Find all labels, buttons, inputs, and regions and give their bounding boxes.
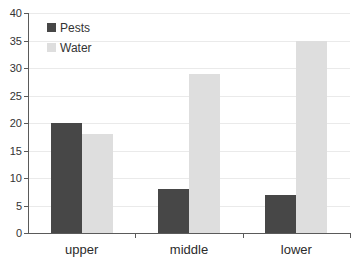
bar-pests-lower [265, 195, 296, 234]
legend-label-pests: Pests [60, 22, 90, 34]
y-axis-line [28, 13, 29, 233]
y-tick-label-30: 30 [0, 62, 22, 74]
y-tick-label-5: 5 [0, 200, 22, 212]
y-tick-40 [24, 13, 28, 14]
y-tick-35 [24, 41, 28, 42]
x-tick-2 [243, 234, 244, 238]
y-tick-25 [24, 96, 28, 97]
bar-pests-upper [51, 123, 82, 233]
legend: Pests Water [47, 22, 92, 62]
y-tick-30 [24, 68, 28, 69]
x-tick-1 [135, 234, 136, 238]
legend-item-water: Water [47, 42, 92, 53]
y-tick-label-40: 40 [0, 7, 22, 19]
y-tick-label-20: 20 [0, 117, 22, 129]
y-tick-label-15: 15 [0, 145, 22, 157]
y-tick-label-25: 25 [0, 90, 22, 102]
x-tick-3 [350, 234, 351, 238]
x-category-label-upper: upper [42, 242, 122, 257]
y-tick-5 [24, 206, 28, 207]
bar-water-lower [296, 41, 327, 234]
x-category-label-lower: lower [256, 242, 336, 257]
x-category-label-middle: middle [149, 242, 229, 257]
x-axis-line [28, 233, 351, 234]
legend-label-water: Water [60, 42, 92, 54]
y-tick-label-0: 0 [0, 227, 22, 239]
y-tick-15 [24, 151, 28, 152]
bar-chart: 0510152025303540uppermiddlelower Pests W… [0, 0, 358, 267]
bar-water-middle [189, 74, 220, 234]
water-swatch-icon [47, 43, 56, 52]
pests-swatch-icon [47, 23, 56, 32]
y-tick-label-35: 35 [0, 35, 22, 47]
bar-pests-middle [158, 189, 189, 233]
legend-item-pests: Pests [47, 22, 92, 33]
y-tick-0 [24, 233, 28, 234]
gridline-40 [28, 13, 350, 14]
bar-water-upper [82, 134, 113, 233]
y-tick-10 [24, 178, 28, 179]
y-tick-20 [24, 123, 28, 124]
y-tick-label-10: 10 [0, 172, 22, 184]
